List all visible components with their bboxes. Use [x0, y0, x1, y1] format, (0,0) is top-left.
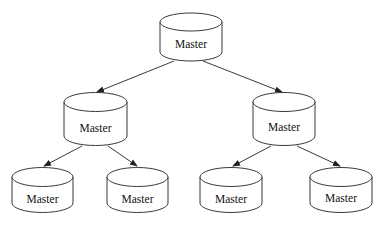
edge-root-mid-left [97, 61, 174, 92]
node-leaf-4: Master [310, 168, 372, 213]
node-label: Master [268, 121, 300, 133]
edge-root-mid-right [203, 61, 282, 92]
node-label: Master [175, 38, 207, 50]
edge-mid-left-leaf-2 [108, 146, 137, 166]
node-leaf-3: Master [200, 168, 262, 213]
node-label: Master [215, 193, 247, 205]
edge-mid-right-leaf-3 [233, 146, 271, 166]
node-label: Master [27, 193, 59, 205]
node-label: Master [122, 193, 154, 205]
node-mid-left: Master [64, 93, 127, 146]
node-leaf-2: Master [107, 168, 168, 213]
node-root: Master [160, 13, 222, 61]
node-mid-right: Master [253, 93, 315, 146]
node-label: Master [80, 122, 112, 134]
node-label: Master [325, 192, 357, 204]
node-leaf-1: Master [12, 168, 73, 213]
replication-tree-diagram: Master Master Master Master Master Maste… [0, 0, 385, 227]
edge-mid-left-leaf-1 [44, 146, 82, 166]
edge-mid-right-leaf-4 [297, 146, 340, 166]
